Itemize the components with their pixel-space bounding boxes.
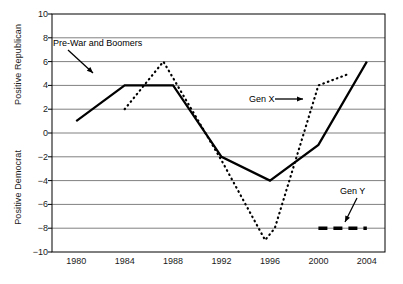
annotation-label-gen-x: Gen X <box>249 94 275 104</box>
x-tick-label: 2004 <box>357 256 377 266</box>
annotation-label-gen-y: Gen Y <box>340 186 365 196</box>
chart-figure: Positive Republican Positive Democrat 10… <box>0 0 403 284</box>
x-tick-label: 1984 <box>115 256 135 266</box>
x-tick-label: 2000 <box>308 256 328 266</box>
x-tick-label: 1992 <box>212 256 232 266</box>
x-tick-label: 1996 <box>260 256 280 266</box>
x-tick-label: 1988 <box>163 256 183 266</box>
x-tick-label: 1980 <box>66 256 86 266</box>
annotation-label-prewar-boomers: Pre-War and Boomers <box>53 38 142 48</box>
